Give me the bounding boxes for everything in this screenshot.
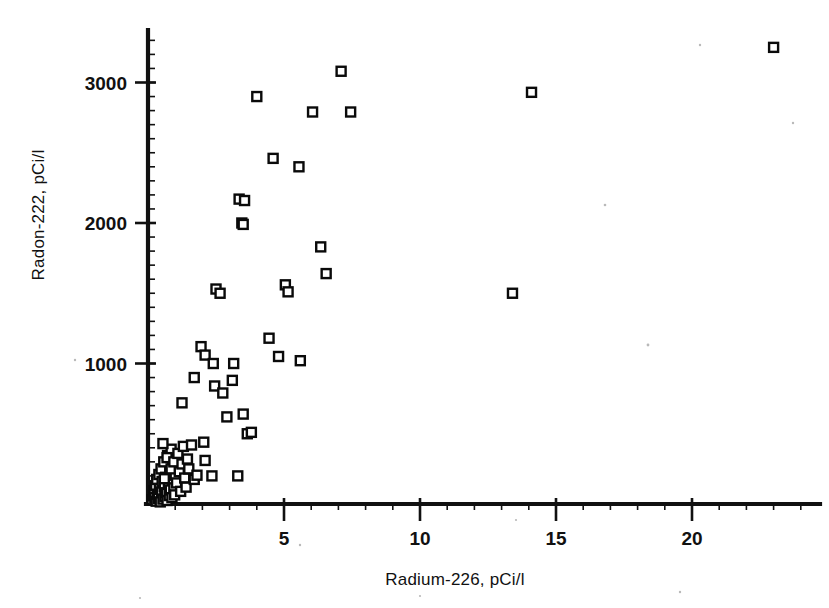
x-axis-major-ticks <box>284 498 692 521</box>
data-point-marker <box>247 428 256 437</box>
data-point-marker <box>180 474 189 483</box>
data-point-marker <box>201 456 210 465</box>
x-tick-label: 20 <box>681 528 702 549</box>
data-point-marker <box>239 220 248 229</box>
x-axis-minor-ticks <box>175 506 801 510</box>
y-axis-title: Radon-222, pCi/l <box>29 150 48 281</box>
data-point-markers <box>148 43 779 507</box>
data-point-marker <box>322 269 331 278</box>
data-point-marker <box>158 439 167 448</box>
data-point-marker <box>239 410 248 419</box>
data-point-marker <box>218 389 227 398</box>
data-point-marker <box>229 359 238 368</box>
data-point-marker <box>508 289 517 298</box>
y-tick-label: 2000 <box>85 213 127 234</box>
x-axis-title: Radium-226, pCi/l <box>385 570 524 589</box>
x-tick-label: 15 <box>545 528 567 549</box>
scan-speckles <box>74 44 794 599</box>
y-axis-minor-ticks <box>150 40 155 490</box>
data-point-marker <box>183 455 192 464</box>
data-point-marker <box>527 88 536 97</box>
data-point-marker <box>274 352 283 361</box>
data-point-marker <box>222 412 231 421</box>
y-tick-label: 1000 <box>85 354 127 375</box>
x-axis-tick-labels: 5101520 <box>279 528 703 549</box>
data-point-marker <box>346 108 355 117</box>
data-point-marker <box>294 162 303 171</box>
scatter-plot-figure: 100020003000 5101520 Radium-226, pCi/l R… <box>0 0 829 608</box>
data-point-marker <box>190 373 199 382</box>
data-point-marker <box>178 398 187 407</box>
data-point-marker <box>216 289 225 298</box>
data-point-marker <box>308 108 317 117</box>
data-point-marker <box>199 438 208 447</box>
data-point-marker <box>233 471 242 480</box>
data-point-marker <box>252 92 261 101</box>
data-point-marker <box>265 334 274 343</box>
data-point-marker <box>160 474 169 483</box>
y-axis-tick-labels: 100020003000 <box>85 73 127 375</box>
x-tick-label: 10 <box>409 528 430 549</box>
data-point-marker <box>207 471 216 480</box>
data-point-marker <box>337 67 346 76</box>
data-point-marker <box>296 356 305 365</box>
y-tick-label: 3000 <box>85 73 127 94</box>
data-point-marker <box>228 376 237 385</box>
data-point-marker <box>284 287 293 296</box>
data-point-marker <box>192 471 201 480</box>
data-point-marker <box>316 242 325 251</box>
data-point-marker <box>240 196 249 205</box>
data-point-marker <box>187 440 196 449</box>
x-tick-label: 5 <box>279 528 290 549</box>
data-point-marker <box>209 359 218 368</box>
data-point-marker <box>769 43 778 52</box>
data-point-marker <box>269 154 278 163</box>
plot-canvas: 100020003000 5101520 Radium-226, pCi/l R… <box>0 0 829 608</box>
